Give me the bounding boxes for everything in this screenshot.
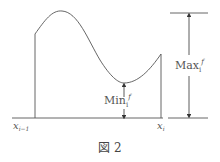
min-label: Minif	[104, 93, 132, 109]
max-label: Maxif	[175, 58, 205, 74]
figure-caption: 図 2	[0, 138, 220, 155]
diagram-figure: Minif Maxif xi−1 xi 図 2	[0, 0, 220, 162]
function-curve	[35, 11, 161, 83]
x-right-label: xi	[157, 120, 165, 132]
x-left-label: xi−1	[13, 120, 29, 132]
